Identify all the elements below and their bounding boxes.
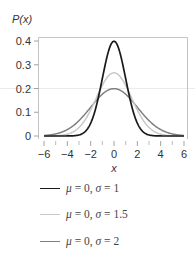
legend-line-black [40, 188, 60, 189]
y-tick-label: 0.4 [16, 35, 31, 47]
legend-line-light-gray [40, 214, 60, 215]
y-tick-label: 0.1 [16, 106, 31, 118]
curve-sigma-2 [44, 89, 184, 136]
curve-sigma-1-5 [44, 73, 184, 136]
x-tick-label: 4 [158, 148, 164, 160]
x-tick-label: 6 [181, 148, 187, 160]
x-tick-label: −4 [61, 148, 74, 160]
x-tick-label: 2 [134, 148, 140, 160]
legend-line-mid-gray [40, 241, 60, 242]
x-tick-label: −6 [38, 148, 51, 160]
x-axis: −6−4−20246 [38, 141, 187, 160]
y-axis: 00.10.20.30.4 [16, 35, 39, 142]
y-tick-label: 0.3 [16, 59, 31, 71]
legend-label: μ = 0, σ = 2 [66, 235, 119, 247]
y-tick-label: 0 [25, 130, 31, 142]
legend-item-sigma-2: μ = 0, σ = 2 [40, 233, 119, 249]
legend-item-sigma-1: μ = 0, σ = 1 [40, 180, 119, 196]
x-axis-title: x [110, 162, 117, 174]
legend-label: μ = 0, σ = 1 [66, 182, 119, 194]
legend-label: μ = 0, σ = 1.5 [66, 208, 128, 220]
x-tick-label: −2 [84, 148, 97, 160]
legend-item-sigma-1-5: μ = 0, σ = 1.5 [40, 206, 128, 222]
y-axis-title: P(x) [12, 13, 33, 25]
y-tick-label: 0.2 [16, 83, 31, 95]
x-tick-label: 0 [111, 148, 117, 160]
